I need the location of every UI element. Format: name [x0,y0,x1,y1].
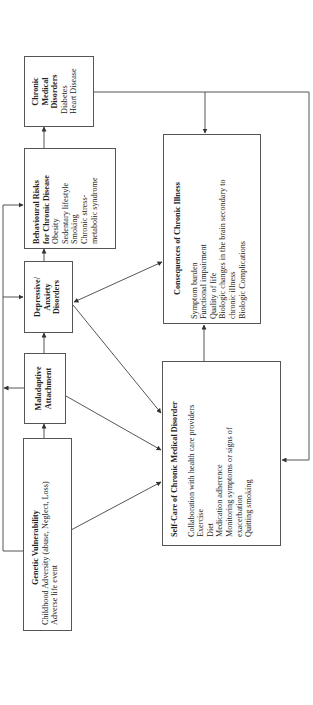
selfcare-item-1: Collaboration with health care providers [187,365,197,537]
consequences-item-1: Symptom burden [190,137,200,319]
depressive-title-line-1: Depressive/ [33,262,43,332]
arrow-depressive-to-selfcare [73,305,161,413]
behavioural-item-1: Obesity [51,149,61,244]
chronic-item-2: Heart Disease [69,57,79,126]
box-genetic-vulnerability: Genetic Vulnerability Childhood Adversit… [23,438,72,631]
behavioural-title-line-1: Behavioural Risks [32,149,42,244]
selfcare-item-2: Exercise [196,365,206,537]
consequences-item-4: Biologic changes in the brain secondary … [218,137,228,319]
behavioural-item-2: Sedentary lifestyle [61,149,71,244]
consequences-item-5: chronic illness [228,137,238,319]
behavioural-item-4: Chronic stress- [80,149,90,244]
behavioural-item-3: Smoking [70,149,80,244]
selfcare-item-4: Medication adherence [215,365,225,537]
genetic-item-1: Childhood Adversity (abuse, Neglect, Los… [41,441,51,625]
box-behavioural-risks: Behavioural Risks for Chronic Disease Ob… [24,148,116,249]
selfcare-item-7: Quitting smoking [244,365,254,537]
box-depressive-anxiety-disorders: Depressive/ Anxiety Disorders [24,261,73,333]
consequences-item-2: Functional impairment [199,137,209,319]
box-maladaptive-attachment: Maladaptive Attachment [24,353,66,424]
box-consequences-of-chronic-illness: Consequences of Chronic Illness Symptom … [163,134,261,324]
selfcare-item-6: exacerbation [235,365,245,537]
arrow-genetic-to-selfcare [71,482,161,530]
selfcare-title: Self-Care of Chronic Medical Disorder [170,365,180,537]
arrow-maladaptive-to-selfcare [66,396,161,450]
box-chronic-medical-disorders: Chronic Medical Disorders Diabetes Heart… [24,56,94,127]
depressive-title-line-2: Anxiety [43,262,53,332]
chronic-item-1: Diabetes [60,57,70,126]
diagram-canvas: Chronic Medical Disorders Diabetes Heart… [0,0,313,705]
chronic-title-line-1: Chronic [31,57,41,126]
genetic-item-2: Adverse life event [50,441,60,625]
maladaptive-title-line-1: Maladaptive [34,354,44,423]
chronic-title-line-3: Disorders [50,57,60,126]
behavioural-title-line-2: for Chronic Disease [42,149,52,244]
double-arrow-depressive-consequences [74,262,162,302]
selfcare-item-3: Diet [206,365,216,537]
consequences-item-3: Quality of life [209,137,219,319]
left-bus-line [3,205,23,551]
depressive-title-line-3: Disorders [52,262,62,332]
consequences-title: Consequences of Chronic Illness [173,137,183,319]
chronic-title-line-2: Medical [41,57,51,126]
selfcare-item-5: Monitoring symptoms or signs of [225,365,235,537]
consequences-item-6: Biologic Complications [238,137,248,319]
maladaptive-title-line-2: Attachment [44,354,54,423]
genetic-title: Genetic Vulnerability [31,441,41,625]
box-self-care-of-chronic-medical-disorder: Self-Care of Chronic Medical Disorder Co… [162,361,281,546]
behavioural-item-5: metabolic syndrome [90,149,100,244]
